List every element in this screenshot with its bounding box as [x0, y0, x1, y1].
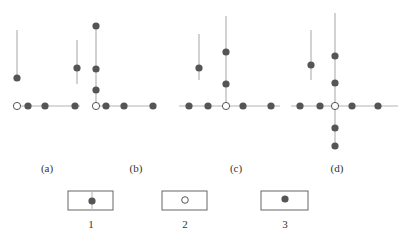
filled-node [267, 102, 274, 109]
filled-node [185, 102, 192, 109]
legend-open-node [182, 197, 189, 204]
filled-node [13, 74, 20, 81]
legend-label: 1 [88, 218, 94, 230]
filled-node [195, 64, 202, 71]
filled-node [41, 102, 48, 109]
filled-node [24, 102, 31, 109]
panel-label: (d) [331, 162, 344, 174]
legend-label: 2 [182, 218, 188, 230]
filled-node [102, 102, 109, 109]
panel-label: (b) [130, 162, 143, 174]
filled-node [92, 22, 99, 29]
filled-node [331, 52, 338, 59]
filled-node [222, 48, 229, 55]
filled-node [92, 86, 99, 93]
filled-node [374, 102, 381, 109]
filled-node [71, 102, 78, 109]
filled-node [120, 102, 127, 109]
legend-label: 3 [282, 218, 288, 230]
filled-node [92, 65, 99, 72]
panel-label: (c) [230, 162, 242, 174]
filled-node [316, 102, 323, 109]
filled-node [331, 142, 338, 149]
filled-node [222, 80, 229, 87]
filled-node [149, 102, 156, 109]
filled-node [307, 61, 314, 68]
legend-filled-node [88, 197, 95, 204]
open-node [331, 102, 338, 109]
open-node [92, 102, 99, 109]
filled-node [204, 102, 211, 109]
filled-node [331, 124, 338, 131]
diagram-canvas [0, 0, 408, 242]
filled-node [296, 102, 303, 109]
filled-node [331, 79, 338, 86]
filled-node [73, 64, 80, 71]
panel-label: (a) [41, 162, 53, 174]
filled-node [239, 102, 246, 109]
legend-filled-node [281, 195, 288, 202]
filled-node [348, 102, 355, 109]
open-node [222, 102, 229, 109]
open-node [13, 102, 20, 109]
